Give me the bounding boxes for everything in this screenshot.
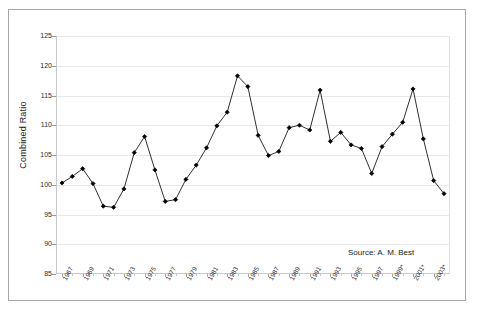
x-tick-mark bbox=[423, 274, 424, 276]
y-tick-mark bbox=[52, 36, 56, 37]
y-tick-label: 85 bbox=[24, 270, 52, 278]
y-tick-mark bbox=[52, 274, 56, 275]
y-tick-mark bbox=[52, 96, 56, 97]
gridline bbox=[57, 36, 450, 37]
y-tick-label: 105 bbox=[24, 151, 52, 159]
source-annotation: Source: A. M. Best bbox=[348, 248, 414, 257]
chart-figure: 859095100105110115120125 Combined Ratio … bbox=[0, 0, 483, 318]
x-tick-mark bbox=[114, 274, 115, 276]
y-tick-label: 100 bbox=[24, 181, 52, 189]
y-tick-label: 90 bbox=[24, 240, 52, 248]
y-tick-mark bbox=[52, 155, 56, 156]
x-tick-mark bbox=[155, 274, 156, 276]
x-tick-mark bbox=[341, 274, 342, 276]
y-axis-title: Combined Ratio bbox=[18, 80, 28, 190]
gridline bbox=[57, 125, 450, 126]
y-tick-mark bbox=[52, 66, 56, 67]
y-tick-label: 120 bbox=[24, 62, 52, 70]
y-tick-mark bbox=[52, 125, 56, 126]
y-tick-label: 95 bbox=[24, 211, 52, 219]
x-tick-mark bbox=[361, 274, 362, 276]
x-tick-mark bbox=[382, 274, 383, 276]
y-tick-mark bbox=[52, 185, 56, 186]
y-tick-mark bbox=[52, 215, 56, 216]
gridline bbox=[57, 96, 450, 97]
x-tick-mark bbox=[72, 274, 73, 276]
x-tick-mark bbox=[299, 274, 300, 276]
gridline bbox=[57, 215, 450, 216]
x-tick-mark bbox=[320, 274, 321, 276]
x-tick-mark bbox=[93, 274, 94, 276]
gridline bbox=[57, 185, 450, 186]
gridline bbox=[57, 155, 450, 156]
y-tick-mark bbox=[52, 244, 56, 245]
x-tick-mark bbox=[258, 274, 259, 276]
y-tick-label: 125 bbox=[24, 32, 52, 40]
x-tick-mark bbox=[238, 274, 239, 276]
x-tick-mark bbox=[279, 274, 280, 276]
x-tick-mark bbox=[444, 274, 445, 276]
x-tick-mark bbox=[217, 274, 218, 276]
gridline bbox=[57, 66, 450, 67]
y-tick-label: 110 bbox=[24, 121, 52, 129]
x-tick-mark bbox=[134, 274, 135, 276]
y-tick-label: 115 bbox=[24, 92, 52, 100]
x-tick-mark bbox=[196, 274, 197, 276]
x-tick-mark bbox=[176, 274, 177, 276]
gridline bbox=[57, 244, 450, 245]
x-tick-mark bbox=[403, 274, 404, 276]
